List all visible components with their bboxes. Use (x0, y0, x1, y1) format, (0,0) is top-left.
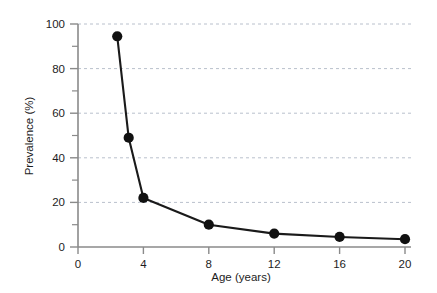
y-tick-label-0: 0 (59, 241, 65, 253)
x-tick-label-12: 12 (268, 258, 281, 270)
prevalence-by-age-chart: 100 80 60 40 20 0 0 4 8 12 16 20 Age (ye… (0, 0, 437, 293)
data-series-prevalence (112, 31, 410, 244)
y-tick-label-60: 60 (52, 107, 65, 119)
gridlines (78, 24, 411, 202)
y-tick-label-80: 80 (52, 63, 65, 75)
series-markers-prevalence (112, 31, 410, 244)
data-point (269, 229, 279, 239)
data-point (335, 232, 345, 242)
y-axis-title: Prevalence (%) (23, 97, 35, 176)
y-tick-label-100: 100 (46, 18, 65, 30)
y-tick-label-40: 40 (52, 152, 65, 164)
chart-canvas: 100 80 60 40 20 0 0 4 8 12 16 20 Age (ye… (0, 0, 437, 293)
x-tick-label-0: 0 (75, 258, 81, 270)
y-tick-labels: 100 80 60 40 20 0 (46, 18, 65, 253)
data-point (124, 133, 134, 143)
x-tick-label-16: 16 (333, 258, 346, 270)
data-point (138, 193, 148, 203)
data-point (400, 234, 410, 244)
y-tick-label-20: 20 (52, 196, 65, 208)
x-tick-labels: 0 4 8 12 16 20 (75, 258, 412, 270)
x-axis-ticks (78, 247, 405, 254)
x-axis-title: Age (years) (211, 271, 271, 283)
x-tick-label-20: 20 (399, 258, 412, 270)
series-line-prevalence (117, 36, 405, 239)
x-tick-label-8: 8 (206, 258, 212, 270)
data-point (112, 31, 122, 41)
y-axis-minor-ticks (72, 46, 78, 224)
data-point (204, 220, 214, 230)
x-tick-label-4: 4 (140, 258, 147, 270)
